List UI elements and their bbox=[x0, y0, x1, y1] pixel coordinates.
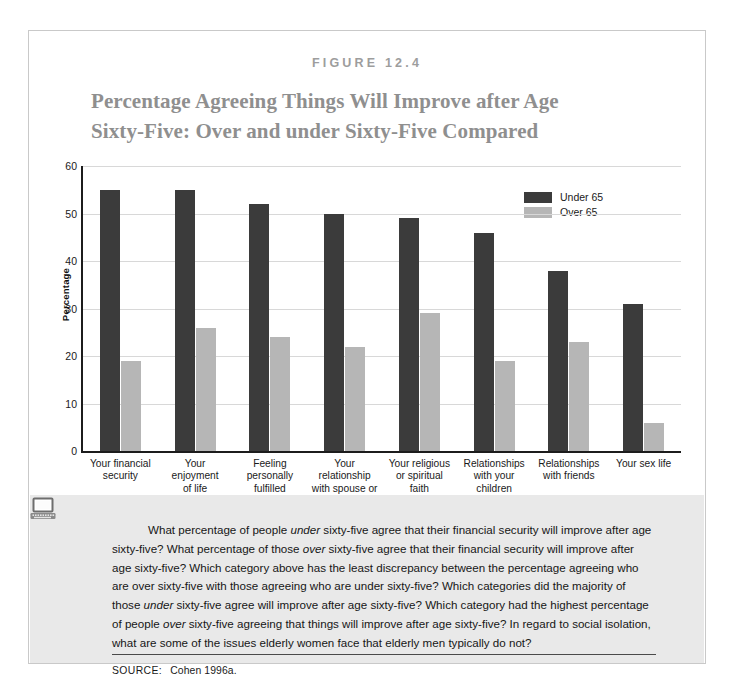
x-axis-category-line: with spouse or bbox=[307, 483, 382, 495]
bar-under-65 bbox=[474, 233, 494, 452]
bar-over-65 bbox=[495, 361, 515, 451]
y-axis-tick-label: 50 bbox=[65, 208, 77, 220]
x-axis-category-label: Your religiousor spiritualfaith bbox=[382, 458, 457, 495]
y-axis-tick-label: 40 bbox=[65, 255, 77, 267]
x-axis-category-label: Yourrelationshipwith spouse or bbox=[307, 458, 382, 495]
bar-over-65 bbox=[345, 347, 365, 452]
x-axis-category-line: fulfilled bbox=[233, 483, 308, 495]
bar-under-65 bbox=[623, 304, 643, 451]
bar-under-65 bbox=[249, 204, 269, 451]
bar-group: Relationshipswith yourchildren bbox=[457, 166, 532, 451]
x-axis-category-line: or spiritual bbox=[382, 470, 457, 482]
bar-under-65 bbox=[175, 190, 195, 451]
caption-emphasis: over bbox=[303, 542, 326, 555]
x-axis-category-line: Your bbox=[158, 458, 233, 470]
x-axis-category-label: Your financialsecurity bbox=[83, 458, 158, 483]
caption-emphasis: under bbox=[290, 523, 320, 536]
x-axis-category-line: children bbox=[457, 483, 532, 495]
caption-emphasis: under bbox=[144, 598, 174, 611]
source-label: SOURCE: bbox=[112, 665, 162, 676]
x-axis-category-line: faith bbox=[382, 483, 457, 495]
caption-divider bbox=[112, 654, 656, 655]
bar-group: Your religiousor spiritualfaith bbox=[382, 166, 457, 451]
x-axis-category-line: relationship bbox=[307, 470, 382, 482]
x-axis-category-label: Relationshipswith yourchildren bbox=[457, 458, 532, 495]
laptop-icon bbox=[30, 497, 56, 521]
caption-inner: What percentage of people under sixty-fi… bbox=[112, 521, 656, 652]
bar-over-65 bbox=[420, 313, 440, 451]
bar-group: Your financialsecurity bbox=[83, 166, 158, 451]
x-axis-category-line: security bbox=[83, 470, 158, 482]
figure-title-line-2: Sixty-Five: Over and under Sixty-Five Co… bbox=[91, 117, 651, 147]
caption-run: sixty-five agreeing that things will imp… bbox=[186, 617, 651, 630]
bar-under-65 bbox=[100, 190, 120, 451]
source-value: Cohen 1996a. bbox=[170, 665, 237, 676]
x-axis-category-line: of life bbox=[158, 483, 233, 495]
bar-group: Yourrelationshipwith spouse or bbox=[307, 166, 382, 451]
bar-over-65 bbox=[121, 361, 141, 451]
y-axis-tick-label: 10 bbox=[65, 398, 77, 410]
bar-group: Your sex life bbox=[606, 166, 681, 451]
bar-under-65 bbox=[399, 218, 419, 451]
y-axis-tick-label: 20 bbox=[65, 350, 77, 362]
figure-number-label: FIGURE 12.4 bbox=[29, 56, 705, 70]
caption-emphasis: over bbox=[163, 617, 186, 630]
x-axis-category-label: Relationshipswith friends bbox=[532, 458, 607, 483]
caption-run: What percentage of people bbox=[148, 523, 290, 536]
x-axis-category-label: Your sex life bbox=[606, 458, 681, 470]
x-axis-category-label: Feelingpersonallyfulfilled bbox=[233, 458, 308, 495]
x-axis-category-line: with friends bbox=[532, 470, 607, 482]
figure-container: FIGURE 12.4 Percentage Agreeing Things W… bbox=[28, 30, 706, 664]
bar-group: Yourenjoymentof life bbox=[158, 166, 233, 451]
x-axis-category-line: Your financial bbox=[83, 458, 158, 470]
x-axis-category-line: with your bbox=[457, 470, 532, 482]
x-axis-category-line: Your religious bbox=[382, 458, 457, 470]
x-axis-category-line: Relationships bbox=[457, 458, 532, 470]
x-axis-category-line: Feeling bbox=[233, 458, 308, 470]
x-axis-category-line: Relationships bbox=[532, 458, 607, 470]
source-line: SOURCE: Cohen 1996a. bbox=[112, 665, 237, 676]
plot-area: 0102030405060Your financialsecurityYoure… bbox=[81, 166, 681, 453]
bar-group: Relationshipswith friends bbox=[532, 166, 607, 451]
bar-over-65 bbox=[569, 342, 589, 451]
figure-title-line-1: Percentage Agreeing Things Will Improve … bbox=[91, 87, 651, 117]
bar-over-65 bbox=[644, 423, 664, 452]
caption-run: what are some of the issues elderly wome… bbox=[112, 636, 532, 649]
y-axis-tick-label: 60 bbox=[65, 160, 77, 172]
y-axis-tick-label: 0 bbox=[71, 445, 77, 457]
x-axis-category-line: enjoyment bbox=[158, 470, 233, 482]
figure-title: Percentage Agreeing Things Will Improve … bbox=[91, 87, 651, 147]
bar-over-65 bbox=[270, 337, 290, 451]
bar-under-65 bbox=[548, 271, 568, 452]
x-axis-category-label: Yourenjoymentof life bbox=[158, 458, 233, 495]
bar-under-65 bbox=[324, 214, 344, 452]
chart: Percentage Under 65Over 65 0102030405060… bbox=[29, 161, 707, 521]
bar-group: Feelingpersonallyfulfilled bbox=[233, 166, 308, 451]
x-axis-category-line: personally bbox=[233, 470, 308, 482]
y-axis-tick-label: 30 bbox=[65, 303, 77, 315]
caption-block: What percentage of people under sixty-fi… bbox=[30, 495, 704, 663]
bar-over-65 bbox=[196, 328, 216, 452]
x-axis-category-line: Your bbox=[307, 458, 382, 470]
x-axis-category-line: Your sex life bbox=[606, 458, 681, 470]
caption-text: What percentage of people under sixty-fi… bbox=[112, 521, 656, 652]
